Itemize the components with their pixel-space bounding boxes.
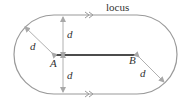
- distance-label-lower-right: d: [140, 67, 146, 79]
- distance-label-vertical-down: d: [67, 69, 73, 81]
- point-a-label: A: [49, 57, 57, 69]
- point-b-label: B: [129, 54, 136, 66]
- locus-label: locus: [106, 1, 129, 13]
- distance-label-vertical-up: d: [67, 28, 73, 40]
- locus-diagram: locus A B d d d d: [0, 0, 184, 105]
- distance-label-upper-left: d: [30, 40, 36, 52]
